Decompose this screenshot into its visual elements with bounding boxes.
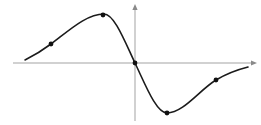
curve-marked-point: [214, 78, 219, 83]
curve-marked-point: [165, 111, 170, 116]
curve-marked-point: [133, 61, 138, 66]
plot-svg: [0, 0, 261, 125]
function-plot: [0, 0, 261, 125]
y-axis-arrow-icon: [132, 4, 137, 10]
curve-marked-point: [49, 42, 54, 47]
x-axis-arrow-icon: [251, 60, 257, 65]
curve-marked-point: [101, 13, 106, 18]
